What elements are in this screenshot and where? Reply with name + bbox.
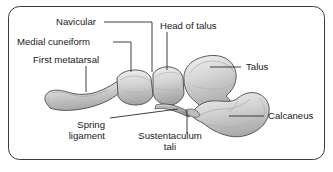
label-first-metatarsal: First metatarsal — [33, 54, 99, 65]
label-sustentaculum-tali-line1: Sustentaculum — [138, 130, 201, 141]
bone-navicular — [153, 67, 184, 105]
label-spring-ligament-line2: ligament — [69, 130, 106, 141]
label-medial-cuneiform: Medial cuneiform — [17, 36, 90, 47]
label-head-of-talus: Head of talus — [160, 20, 217, 31]
label-talus: Talus — [246, 61, 269, 72]
label-spring-ligament-line1: Spring — [77, 119, 105, 130]
label-sustentaculum-tali-line2: tali — [164, 141, 176, 152]
label-navicular: Navicular — [56, 16, 97, 27]
label-calcaneus: Calcaneus — [268, 110, 314, 121]
bone-medial-cuneiform — [117, 70, 153, 105]
anatomy-figure: Navicular Medial cuneiform First metatar… — [0, 0, 333, 172]
